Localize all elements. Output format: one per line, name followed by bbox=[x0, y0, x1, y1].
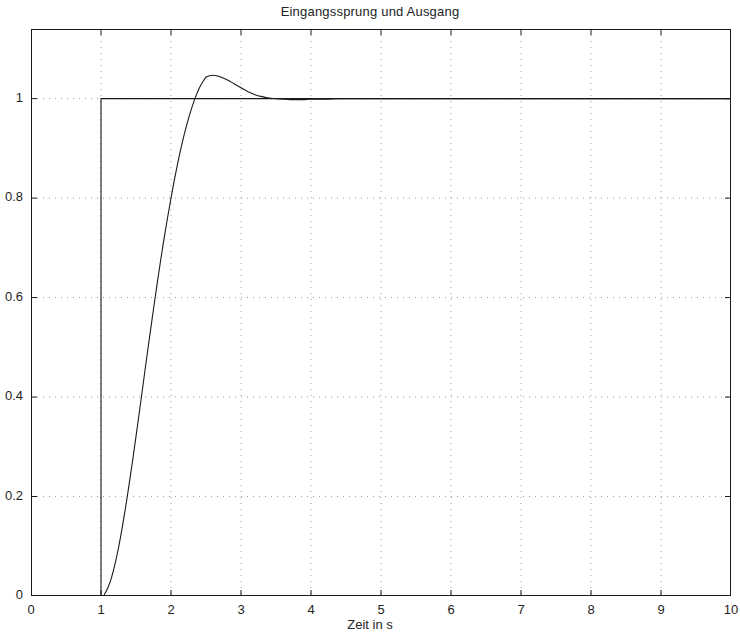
x-tick-label: 4 bbox=[281, 602, 341, 617]
axis-ticks bbox=[31, 29, 731, 596]
plot-svg bbox=[31, 29, 731, 596]
x-tick-label: 9 bbox=[631, 602, 691, 617]
x-tick-label: 8 bbox=[561, 602, 621, 617]
x-tick-label: 0 bbox=[1, 602, 61, 617]
x-tick-label: 3 bbox=[211, 602, 271, 617]
y-tick-label: 0.8 bbox=[0, 189, 23, 204]
plot-area bbox=[31, 29, 731, 596]
x-tick-label: 5 bbox=[351, 602, 411, 617]
x-tick-label: 10 bbox=[701, 602, 740, 617]
y-tick-label: 0.2 bbox=[0, 488, 23, 503]
x-tick-label: 1 bbox=[71, 602, 131, 617]
x-axis-label: Zeit in s bbox=[0, 617, 740, 632]
y-tick-label: 0 bbox=[0, 587, 23, 602]
y-tick-label: 1 bbox=[0, 90, 23, 105]
axes-box bbox=[32, 30, 731, 596]
x-tick-label: 7 bbox=[491, 602, 551, 617]
figure-canvas: Eingangssprung und Ausgang 00.20.40.60.8… bbox=[0, 0, 740, 638]
x-tick-label: 2 bbox=[141, 602, 201, 617]
grid-lines bbox=[31, 29, 731, 596]
x-tick-label: 6 bbox=[421, 602, 481, 617]
chart-title: Eingangssprung und Ausgang bbox=[0, 4, 740, 19]
y-tick-label: 0.4 bbox=[0, 388, 23, 403]
y-tick-label: 0.6 bbox=[0, 289, 23, 304]
